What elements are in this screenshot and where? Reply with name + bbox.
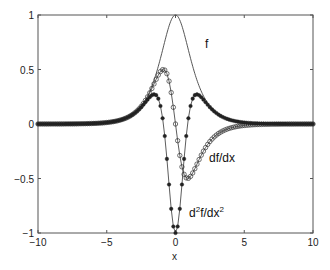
label-dfdx: df/dx: [209, 151, 235, 165]
x-tick-label: 0: [173, 237, 179, 248]
x-tick-label: 10: [307, 237, 319, 248]
y-tick-label: 1: [28, 10, 34, 21]
marker-d2fdx2: [187, 116, 191, 120]
marker-d2fdx2: [189, 104, 193, 108]
marker-d2fdx2: [191, 97, 195, 101]
marker-d2fdx2: [159, 104, 163, 108]
marker-d2fdx2: [157, 97, 161, 101]
x-tick-label: −5: [101, 237, 113, 248]
y-tick-label: 0.5: [20, 65, 34, 76]
curve-d2fdx2: [38, 94, 313, 233]
curves: [36, 15, 315, 235]
x-tick-label: 5: [241, 237, 247, 248]
marker-d2fdx2: [180, 183, 184, 187]
marker-d2fdx2: [184, 134, 188, 138]
marker-d2fdx2: [174, 231, 178, 235]
x-axis-label: x: [172, 251, 177, 262]
marker-d2fdx2: [178, 207, 182, 211]
marker-d2fdx2: [163, 134, 167, 138]
plot-canvas: −10−5051010.50−0.5−1 f df/dx d2f/dx2 x: [0, 0, 330, 270]
label-d2fdx2: d2f/dx2: [189, 205, 224, 220]
marker-d2fdx2: [169, 207, 173, 211]
marker-d2fdx2: [311, 122, 315, 126]
axis-ticks: −10−5051010.50−0.5−1: [14, 10, 319, 248]
label-f: f: [205, 37, 209, 51]
marker-d2fdx2: [182, 157, 186, 161]
marker-d2fdx2: [154, 93, 158, 97]
marker-d2fdx2: [167, 183, 171, 187]
marker-d2fdx2: [176, 225, 180, 229]
y-tick-label: 0: [28, 119, 34, 130]
marker-d2fdx2: [172, 225, 176, 229]
marker-d2fdx2: [165, 157, 169, 161]
y-tick-label: −0.5: [14, 174, 34, 185]
y-tick-label: −1: [23, 228, 35, 239]
marker-d2fdx2: [161, 116, 165, 120]
